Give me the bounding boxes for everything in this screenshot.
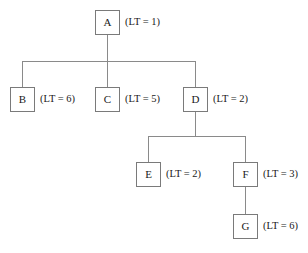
edge-d-e <box>148 112 245 162</box>
edge-layer <box>0 0 308 253</box>
node-e[interactable]: E <box>136 162 161 187</box>
node-label-a: (LT = 1) <box>125 17 160 28</box>
node-label-g: (LT = 6) <box>263 221 298 232</box>
node-label-d: (LT = 2) <box>213 94 248 105</box>
node-label-f: (LT = 3) <box>263 169 298 180</box>
node-f[interactable]: F <box>233 162 258 187</box>
edge-a-b <box>22 35 195 87</box>
node-label-c: (LT = 5) <box>125 94 160 105</box>
tree-diagram: A(LT = 1)B(LT = 6)C(LT = 5)D(LT = 2)E(LT… <box>0 0 308 253</box>
node-g[interactable]: G <box>233 214 258 239</box>
node-a[interactable]: A <box>95 10 120 35</box>
node-b[interactable]: B <box>10 87 35 112</box>
node-d[interactable]: D <box>183 87 208 112</box>
node-label-b: (LT = 6) <box>40 94 75 105</box>
node-label-e: (LT = 2) <box>166 169 201 180</box>
node-c[interactable]: C <box>95 87 120 112</box>
